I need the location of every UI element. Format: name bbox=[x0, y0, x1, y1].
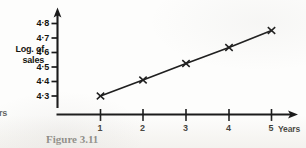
x-tick-label-4: 4 bbox=[226, 124, 231, 133]
y-axis-title-line-2: sales bbox=[0, 55, 44, 66]
y-tick-label-4-4: 4·4 bbox=[22, 77, 49, 86]
data-point-markers bbox=[97, 27, 275, 99]
y-axis-title-line-1: Log. of bbox=[0, 44, 44, 55]
data-point-1 bbox=[97, 93, 104, 100]
data-point-4 bbox=[225, 44, 232, 51]
x-tick-label-2: 2 bbox=[140, 124, 145, 133]
data-point-2 bbox=[139, 77, 146, 84]
data-point-5 bbox=[268, 27, 275, 34]
x-tick-label-1: 1 bbox=[98, 124, 103, 133]
figure-container: 4·8 4·7 4·6 4·5 4·4 4·3 Log. of sales 1 … bbox=[0, 0, 306, 148]
y-tick-label-4-8: 4·8 bbox=[22, 19, 49, 28]
figure-caption: Figure 3.11 bbox=[46, 135, 166, 148]
figure-caption-text: Figure 3.11 bbox=[46, 135, 98, 145]
x-tick-label-5: 5 bbox=[269, 124, 274, 133]
y-axis bbox=[54, 8, 62, 109]
y-tick-label-4-3: 4·3 bbox=[22, 92, 49, 101]
x-tick-label-3: 3 bbox=[183, 124, 188, 133]
cropped-margin-text: rs bbox=[0, 108, 7, 118]
x-axis-title: Years bbox=[278, 125, 300, 134]
y-tick-label-4-7: 4·7 bbox=[22, 34, 49, 43]
data-point-3 bbox=[182, 60, 189, 67]
x-axis bbox=[57, 111, 299, 119]
